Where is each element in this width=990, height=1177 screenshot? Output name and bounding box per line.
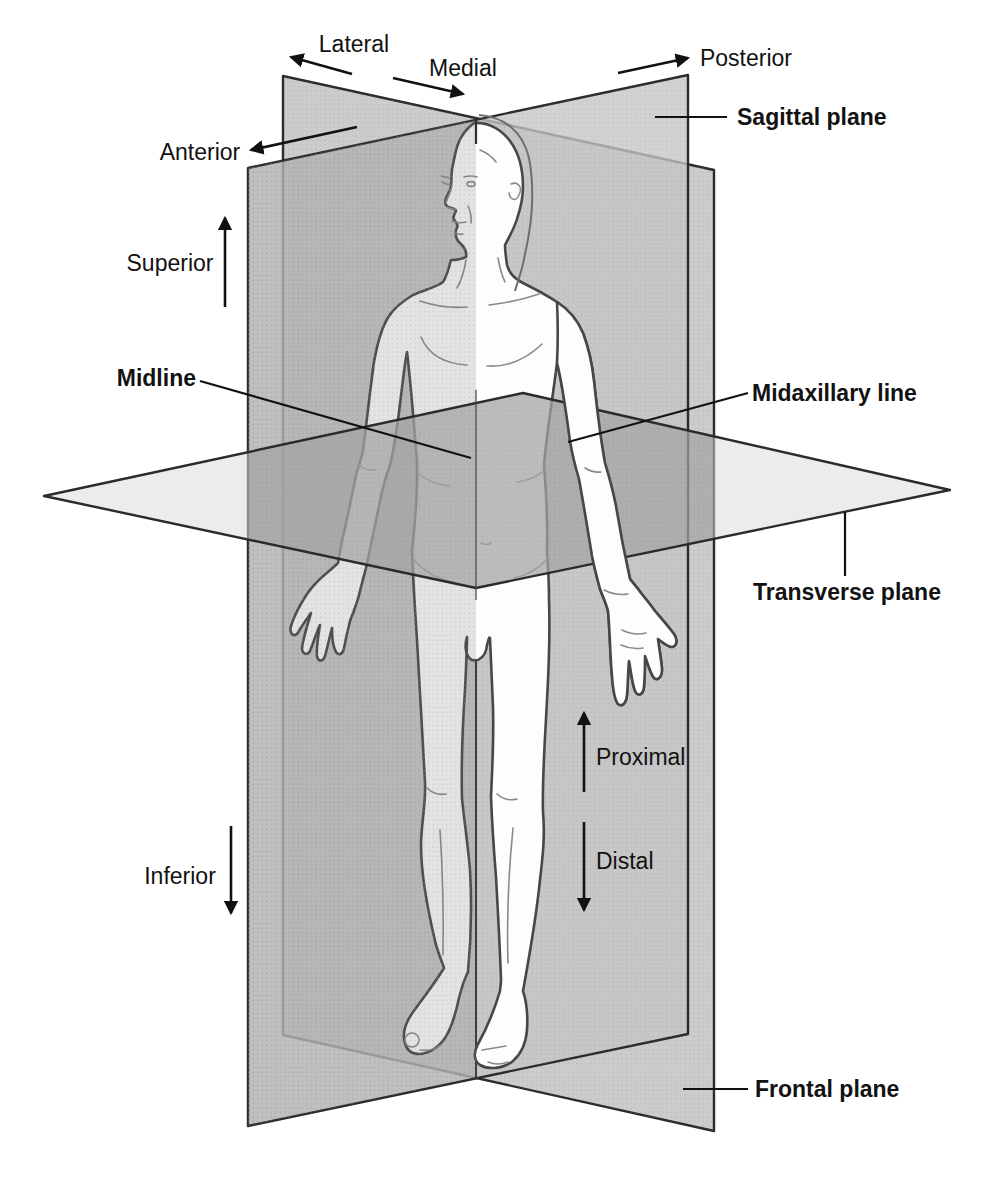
- label-posterior: Posterior: [700, 45, 792, 71]
- sagittal-anterior-overlay: [248, 119, 476, 1126]
- label-proximal: Proximal: [596, 744, 685, 770]
- transverse-plane-surface: [44, 380, 950, 595]
- label-transverse-plane: Transverse plane: [753, 579, 941, 605]
- label-anterior: Anterior: [160, 139, 241, 165]
- anatomy-diagram: Lateral Medial Posterior Anterior Superi…: [0, 0, 990, 1177]
- label-frontal-plane: Frontal plane: [755, 1076, 899, 1102]
- label-inferior: Inferior: [144, 863, 216, 889]
- label-medial: Medial: [429, 55, 497, 81]
- label-superior: Superior: [127, 250, 214, 276]
- label-lateral: Lateral: [319, 31, 389, 57]
- label-midaxillary-line: Midaxillary line: [752, 380, 917, 406]
- label-distal: Distal: [596, 848, 654, 874]
- anatomical-planes-figure: Lateral Medial Posterior Anterior Superi…: [0, 0, 990, 1177]
- lateral-arrow: [291, 57, 352, 74]
- label-midline: Midline: [117, 365, 196, 391]
- posterior-arrow: [618, 58, 688, 73]
- label-sagittal-plane: Sagittal plane: [737, 104, 887, 130]
